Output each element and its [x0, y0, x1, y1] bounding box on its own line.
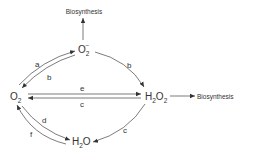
edge-label-c-lower: c [123, 126, 127, 135]
biosynthesis-right-label: Biosynthesis [197, 93, 234, 101]
node-oxygen: O2 [10, 91, 22, 104]
node-superoxide: O2− [78, 42, 90, 57]
arrow-b-superoxide-to-h2o2 [95, 52, 144, 87]
edge-label-e: e [80, 84, 85, 93]
edge-label-c-middle: c [80, 100, 84, 109]
edge-label-a: a [35, 60, 40, 69]
arrow-b-superoxide-to-o2 [22, 55, 75, 88]
arrow-c-h2o2-to-h2o [93, 104, 145, 142]
node-water: H2O [72, 136, 91, 149]
oxygen-metabolism-diagram: Biosynthesis O2− O2 H2O2 H2O Biosynthesi… [0, 0, 257, 155]
edge-label-d: d [42, 116, 46, 125]
edge-label-b-right: b [127, 61, 132, 70]
biosynthesis-top-label: Biosynthesis [66, 8, 103, 16]
node-hydrogen-peroxide: H2O2 [145, 91, 168, 104]
edge-label-f: f [30, 130, 33, 139]
edge-label-b-left: b [47, 73, 52, 82]
